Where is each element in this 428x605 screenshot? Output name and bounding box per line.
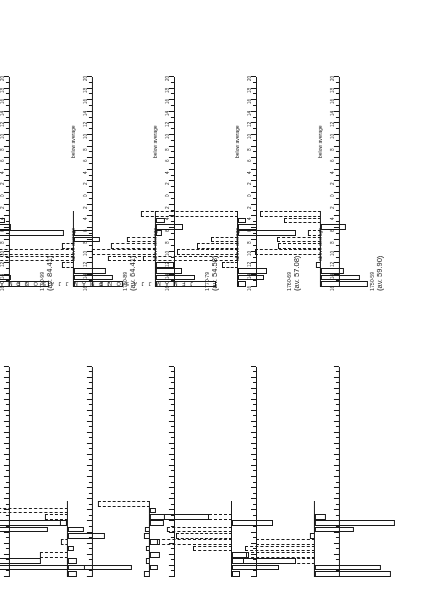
axis-tick [171,117,174,118]
axis-tick [336,105,339,106]
axis-tick [171,140,174,141]
axis-tick [4,454,9,455]
axis-tick [334,454,339,455]
axis-tick [4,169,9,170]
axis-tick-label: 4 [0,218,5,221]
axis-tick [6,245,9,246]
axis-tick [89,198,92,199]
axis-tick-label: 4 [0,171,5,174]
axis-tick [169,465,174,466]
axis-tick [253,493,256,494]
axis-tick [253,117,256,118]
axis-tick [171,438,174,439]
value-axis-upper-1780 [92,367,93,577]
axis-tick [253,186,256,187]
axis-tick [253,449,256,450]
axis-tick [89,163,92,164]
axis-tick [6,427,9,428]
axis-tick [6,163,9,164]
axis-tick [251,366,256,367]
axis-tick [89,117,92,118]
value-axis-lower-1750 [339,77,340,287]
axis-tick [6,93,9,94]
axis-tick [89,186,92,187]
axis-tick-label: 8 [0,241,5,244]
axis-tick [169,421,174,422]
panel-title-average: (av. 54.58) [210,256,219,291]
axis-tick [171,175,174,176]
axis-tick [251,443,256,444]
axis-tick-label: 2 [0,206,5,209]
axis-tick-label: 16 [0,99,5,104]
axis-tick [251,487,256,488]
axis-tick [334,543,339,544]
axis-tick [334,443,339,444]
axis-tick-label: 16 [0,286,5,291]
axis-tick [6,175,9,176]
axis-tick [253,526,256,527]
axis-tick [251,476,256,477]
axis-tick [253,105,256,106]
axis-tick [253,427,256,428]
axis-tick-label: 14 [0,111,5,116]
axis-tick [87,443,92,444]
axis-tick [89,515,92,516]
axis-tick [334,432,339,433]
axis-tick [87,204,92,205]
axis-tick [6,493,9,494]
panel-lower-1760: 1760-69(av. 57.08)J F M A M J J A S O N … [256,77,332,287]
axis-tick [336,537,339,538]
axis-tick [89,493,92,494]
axis-tick [6,372,9,373]
axis-tick [171,394,174,395]
axis-tick [171,559,174,560]
axis-tick [6,482,9,483]
axis-tick [253,175,256,176]
axis-tick [87,498,92,499]
axis-tick [334,146,339,147]
panel-title-lower-1780: 1780-89(av. 64.41) [122,256,137,291]
axis-tick [89,471,92,472]
axis-tick [253,548,256,549]
axis-tick [87,399,92,400]
axis-tick [89,372,92,373]
axis-tick [87,388,92,389]
axis-tick [251,454,256,455]
axis-tick [87,421,92,422]
axis-tick [4,421,9,422]
axis-tick [169,180,174,181]
axis-tick [6,257,9,258]
panel-title-average: (av. 59.90) [375,256,384,291]
panel-title-average: (av. 57.08) [292,256,301,291]
axis-tick [169,509,174,510]
axis-tick [334,169,339,170]
panel-title-average: (av. 64.41) [128,256,137,291]
panel-upper-1790 [9,367,85,577]
axis-tick-label: 8 [0,148,5,151]
axis-tick [334,509,339,510]
axis-tick-label: 20 [0,76,5,81]
axis-tick [253,383,256,384]
axis-tick [253,460,256,461]
axis-tick [89,151,92,152]
axis-tick [336,82,339,83]
axis-tick [171,257,174,258]
axis-tick [334,388,339,389]
axis-tick [6,268,9,269]
axis-tick [4,239,9,240]
axis-tick [4,432,9,433]
axis-tick [171,504,174,505]
axis-tick [89,383,92,384]
axis-tick [253,210,256,211]
axis-tick [169,498,174,499]
axis-tick [171,449,174,450]
axis-tick [169,204,174,205]
axis-tick [336,163,339,164]
axis-tick [4,443,9,444]
axis-tick [251,399,256,400]
panel-title-lower-1760: 1760-69(av. 57.08) [286,256,301,291]
axis-tick [6,394,9,395]
axis-tick [336,93,339,94]
axis-tick [253,416,256,417]
axis-tick [336,128,339,129]
